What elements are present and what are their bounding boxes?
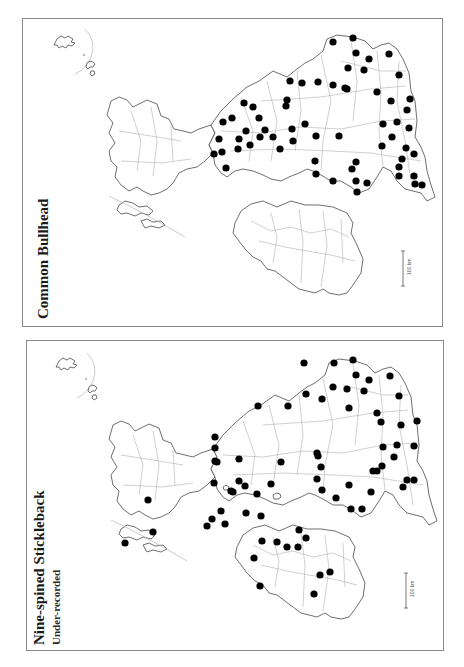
record-dot [343,385,350,392]
record-dot [234,145,241,152]
record-dot [379,443,386,450]
record-dot [403,106,410,113]
record-dot [240,99,247,106]
record-dot [347,505,354,512]
record-dot [121,539,128,546]
scotland-outline [109,421,217,519]
record-dot [241,482,248,489]
record-dot [352,158,359,165]
record-dot [312,170,319,177]
record-dot [257,512,264,519]
record-dot [393,441,400,448]
distribution-map: 100 km [27,341,445,652]
record-dot [298,79,305,86]
record-dot [284,402,291,409]
record-dot [211,444,218,451]
record-dot [283,96,290,103]
record-dot [395,392,402,399]
record-dot [228,114,235,121]
record-dot [211,433,218,440]
record-dot [399,483,406,490]
record-dot [360,66,367,73]
record-dot [256,582,263,589]
record-dot [213,458,220,465]
scale-bar: 100 km [404,573,415,608]
scotland-outline [107,97,215,195]
species-title-block: Common Bullhead [35,199,52,319]
record-dot [273,538,280,545]
species-title: Common Bullhead [35,199,52,319]
record-dot [349,356,356,363]
record-dot [318,486,325,493]
record-dot [367,488,374,495]
record-dot [316,571,323,578]
record-dot [352,177,359,184]
record-dot [302,390,309,397]
record-dot [402,144,409,151]
record-dot [253,490,260,497]
record-dot [149,528,156,535]
record-dot [246,141,253,148]
record-dot [300,359,307,366]
record-dot [349,34,356,41]
record-dot [365,376,372,383]
record-dot [373,409,380,416]
record-dot [277,458,284,465]
record-dot [256,133,263,140]
ireland-outline [233,201,363,295]
record-dot [341,84,348,91]
record-dot [222,164,229,171]
distribution-map: 100 km [23,19,444,328]
record-dot [215,135,222,142]
record-dot [282,102,289,109]
record-dot [329,383,336,390]
species-title: Nine-spined Stickleback [31,490,48,645]
record-dot [335,132,342,139]
species-subtitle: Under-recorded [49,490,63,645]
record-dot [329,177,336,184]
record-dot [312,132,319,139]
record-dot [203,522,210,529]
record-dot [313,449,320,456]
record-dot [317,463,324,470]
record-dot [395,163,402,170]
record-dot [318,395,325,402]
record-dot [294,543,301,550]
record-dot [398,155,405,162]
record-dot [255,114,262,121]
record-dot [345,481,352,488]
species-title-block: Nine-spined Stickleback Under-recorded [31,490,63,645]
record-dot [406,95,413,102]
record-dot [360,387,367,394]
record-dot [388,133,395,140]
record-dot [378,142,385,149]
record-dot [144,496,151,503]
ireland-outline [235,525,365,619]
record-dot [249,103,256,110]
record-dot [258,537,265,544]
record-dot [219,118,226,125]
record-dot [386,372,393,379]
scale-bar: 100 km [401,251,412,286]
record-dot [326,568,333,575]
record-dot [390,453,397,460]
record-dot [373,88,380,95]
record-dot [210,150,217,157]
record-dot [379,120,386,127]
record-dot [311,157,318,164]
record-dot [314,78,321,85]
record-dot [418,181,425,188]
record-dot [267,480,274,487]
record-dot [330,359,337,366]
record-dot [313,475,320,482]
record-dot [289,137,296,144]
record-dot [235,477,242,484]
record-dot [221,520,228,527]
record-dot [387,97,394,104]
svg-text:100 km: 100 km [406,259,412,275]
record-dot [288,125,295,132]
record-dot [352,371,359,378]
record-dot [352,49,359,56]
record-dot [250,554,257,561]
record-dot [410,476,417,483]
